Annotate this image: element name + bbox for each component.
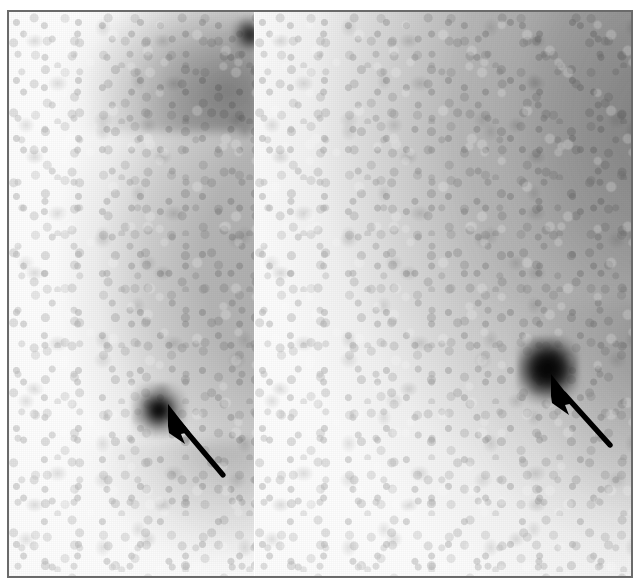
left-arrow-head xyxy=(168,404,190,444)
panel-left-breast-view xyxy=(9,12,255,576)
scintimammography-figure xyxy=(0,0,643,588)
left-arrow-overlay xyxy=(9,12,255,576)
right-arrow-overlay xyxy=(255,12,633,576)
right-arrow-head xyxy=(551,374,574,415)
panel-right-breast-view xyxy=(255,12,633,576)
image-frame xyxy=(7,10,633,578)
